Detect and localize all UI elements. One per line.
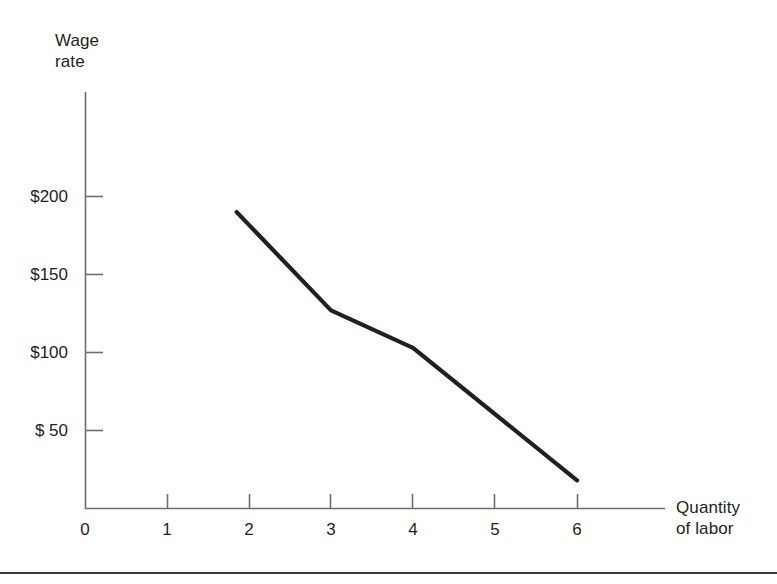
x-tick-label-0: 0 [70,520,100,540]
x-tick-label-6: 6 [562,520,592,540]
bottom-divider [0,572,777,574]
x-tick-label-4: 4 [398,520,428,540]
x-tick-label-1: 1 [152,520,182,540]
y-tick-label-100: $100 [0,343,68,363]
y-tick-label-150: $150 [0,265,68,285]
x-tick-label-5: 5 [480,520,510,540]
y-axis-title: Wage rate [55,30,99,72]
y-tick-label-200: $200 [0,187,68,207]
x-axis-title: Quantity of labor [676,497,740,539]
y-axis-ticks [85,197,103,431]
x-tick-label-3: 3 [316,520,346,540]
x-tick-label-2: 2 [234,520,264,540]
plot-area [0,0,777,584]
chart-figure: Wage rate Quantity of labor $200 $150 $1… [0,0,777,584]
y-tick-label-50: $ 50 [0,421,68,441]
x-axis-ticks [168,494,578,508]
wage-rate-curve [237,212,577,480]
